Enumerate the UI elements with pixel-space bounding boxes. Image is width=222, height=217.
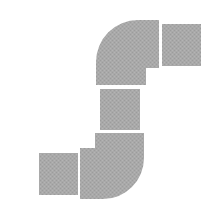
middle-square	[100, 89, 140, 130]
bottom-elbow	[80, 133, 144, 199]
s-pipe-diagram	[0, 0, 222, 217]
top-right-square	[162, 24, 201, 66]
top-elbow	[96, 20, 159, 85]
bottom-left-square	[39, 153, 78, 195]
